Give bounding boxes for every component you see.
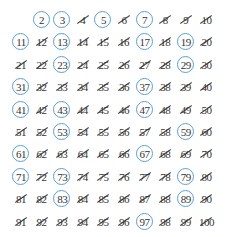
- number-label: 40: [201, 81, 211, 93]
- composite-number-cell: 65: [93, 144, 113, 164]
- composite-number-cell: 69: [176, 144, 196, 164]
- prime-number-cell: 11: [11, 32, 31, 52]
- prime-number-cell: 47: [135, 100, 155, 120]
- prime-number-cell: 19: [176, 32, 196, 52]
- composite-number-cell: 24: [73, 55, 93, 75]
- composite-number-cell: 62: [32, 144, 52, 164]
- number-label: 84: [78, 193, 88, 205]
- prime-number-cell: 59: [176, 122, 196, 142]
- number-label: 6: [122, 14, 127, 26]
- composite-number-cell: 72: [32, 167, 52, 187]
- prime-number-cell: 53: [52, 122, 72, 142]
- composite-number-cell: 56: [114, 122, 134, 142]
- prime-number-cell: 83: [52, 189, 72, 209]
- number-label: 8: [163, 14, 168, 26]
- number-label: 34: [78, 81, 88, 93]
- composite-number-cell: 60: [196, 122, 216, 142]
- number-label: 88: [160, 193, 170, 205]
- prime-number-cell: 37: [135, 77, 155, 97]
- number-label: 55: [98, 126, 108, 138]
- composite-number-cell: 40: [196, 77, 216, 97]
- prime-number-cell: 2: [32, 10, 52, 30]
- number-label: 7: [142, 14, 147, 26]
- composite-number-cell: 25: [93, 55, 113, 75]
- number-label: 71: [16, 171, 26, 183]
- number-label: 49: [181, 104, 191, 116]
- number-label: 83: [57, 193, 67, 205]
- number-label: 5: [101, 14, 106, 26]
- number-label: 64: [78, 148, 88, 160]
- prime-number-cell: 23: [52, 55, 72, 75]
- composite-number-cell: 30: [196, 55, 216, 75]
- number-label: 78: [160, 171, 170, 183]
- number-label: 26: [119, 59, 129, 71]
- number-label: 73: [57, 171, 67, 183]
- composite-number-cell: 46: [114, 100, 134, 120]
- number-label: 79: [181, 171, 191, 183]
- prime-number-cell: 29: [176, 55, 196, 75]
- composite-number-cell: 54: [73, 122, 93, 142]
- number-label: 4: [80, 14, 85, 26]
- number-label: 45: [98, 104, 108, 116]
- number-label: 30: [201, 59, 211, 71]
- number-label: 16: [119, 36, 129, 48]
- number-label: 2: [39, 14, 44, 26]
- composite-number-cell: 39: [176, 77, 196, 97]
- composite-number-cell: 81: [11, 189, 31, 209]
- composite-number-cell: 28: [155, 55, 175, 75]
- number-label: 50: [201, 104, 211, 116]
- number-label: 38: [160, 81, 170, 93]
- number-label: 95: [98, 216, 108, 228]
- composite-number-cell: 42: [32, 100, 52, 120]
- number-label: 92: [37, 216, 47, 228]
- prime-number-cell: 67: [135, 144, 155, 164]
- number-label: 21: [16, 59, 26, 71]
- composite-number-cell: 90: [196, 189, 216, 209]
- number-label: 86: [119, 193, 129, 205]
- number-label: 94: [78, 216, 88, 228]
- composite-number-cell: 48: [155, 100, 175, 120]
- composite-number-cell: 36: [114, 77, 134, 97]
- composite-number-cell: 52: [32, 122, 52, 142]
- composite-number-cell: 55: [93, 122, 113, 142]
- prime-number-cell: 7: [135, 10, 155, 30]
- number-label: 10: [201, 14, 211, 26]
- number-label: 29: [181, 59, 191, 71]
- prime-number-cell: 73: [52, 167, 72, 187]
- number-label: 17: [140, 36, 150, 48]
- number-label: 99: [181, 216, 191, 228]
- number-label: 65: [98, 148, 108, 160]
- number-label: 63: [57, 148, 67, 160]
- composite-number-cell: 88: [155, 189, 175, 209]
- number-label: 12: [37, 36, 47, 48]
- prime-number-cell: 89: [176, 189, 196, 209]
- number-label: 41: [16, 104, 26, 116]
- composite-number-cell: 20: [196, 32, 216, 52]
- number-label: 80: [201, 171, 211, 183]
- composite-number-cell: 57: [135, 122, 155, 142]
- composite-number-cell: 26: [114, 55, 134, 75]
- number-label: 54: [78, 126, 88, 138]
- composite-number-cell: 33: [52, 77, 72, 97]
- composite-number-cell: 34: [73, 77, 93, 97]
- composite-number-cell: 18: [155, 32, 175, 52]
- composite-number-cell: 80: [196, 167, 216, 187]
- number-label: 24: [78, 59, 88, 71]
- prime-number-cell: 41: [11, 100, 31, 120]
- number-label: 22: [37, 59, 47, 71]
- number-label: 13: [57, 36, 67, 48]
- composite-number-cell: 64: [73, 144, 93, 164]
- number-label: 37: [140, 81, 150, 93]
- number-label: 42: [37, 104, 47, 116]
- number-label: 46: [119, 104, 129, 116]
- number-label: 70: [201, 148, 211, 160]
- prime-number-cell: 13: [52, 32, 72, 52]
- number-label: 27: [140, 59, 150, 71]
- number-label: 15: [98, 36, 108, 48]
- prime-number-cell: 5: [93, 10, 113, 30]
- number-label: 89: [181, 193, 191, 205]
- number-label: 28: [160, 59, 170, 71]
- prime-number-cell: 43: [52, 100, 72, 120]
- number-label: 47: [140, 104, 150, 116]
- number-label: 36: [119, 81, 129, 93]
